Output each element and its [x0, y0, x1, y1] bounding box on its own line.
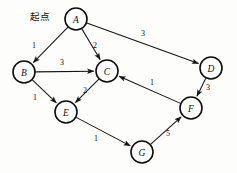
- graph-edge-C-E: [75, 79, 99, 103]
- edge-weight-F-C: 1: [150, 78, 154, 87]
- edge-weight-E-G: 1: [94, 134, 98, 143]
- graph-node-G[interactable]: G: [131, 141, 153, 163]
- node-label-D: D: [207, 64, 215, 74]
- graph-node-F[interactable]: F: [180, 97, 202, 119]
- node-label-A: A: [72, 15, 79, 25]
- graph-edge-B-C: [35, 71, 93, 72]
- nodes-layer: ABCDEFG: [13, 8, 222, 163]
- graph-edge-D-F: [197, 78, 206, 96]
- node-label-E: E: [62, 108, 69, 118]
- edge-weight-C-E: 2: [83, 86, 87, 95]
- edge-weight-G-F: 5: [166, 129, 170, 138]
- edge-weight-A-D: 3: [141, 29, 145, 38]
- graph-edge-E-G: [76, 117, 130, 145]
- edge-weight-A-B: 1: [32, 41, 36, 50]
- edge-weight-B-C: 3: [60, 58, 64, 67]
- graph-node-C[interactable]: C: [96, 60, 118, 82]
- node-label-G: G: [139, 148, 146, 158]
- edges-layer: [32, 23, 206, 146]
- graph-node-E[interactable]: E: [55, 101, 77, 123]
- graph-edge-A-C: [82, 29, 100, 60]
- graph-node-B[interactable]: B: [13, 61, 35, 83]
- graph-diagram-canvas: 起点 ABCDEFG 1233123115: [0, 0, 237, 173]
- edge-weight-B-E: 1: [33, 93, 37, 102]
- graph-node-A[interactable]: A: [65, 8, 87, 30]
- edge-weight-D-F: 3: [206, 83, 210, 92]
- node-label-C: C: [104, 67, 111, 77]
- edge-weights-layer: 1233123115: [32, 29, 210, 143]
- edge-weight-A-C: 2: [93, 41, 97, 50]
- graph-node-D[interactable]: D: [200, 57, 222, 79]
- node-label-B: B: [21, 68, 27, 78]
- graph-svg: ABCDEFG 1233123115: [0, 0, 237, 173]
- node-label-F: F: [187, 104, 194, 114]
